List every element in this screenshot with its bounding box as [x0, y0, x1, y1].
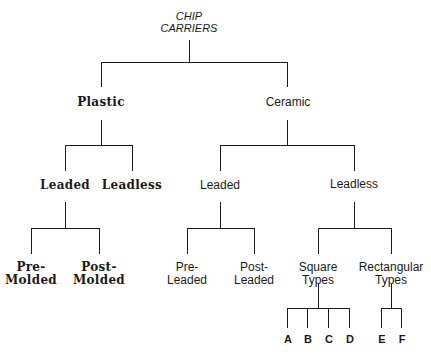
connector-to-ceramic-leadless	[354, 145, 355, 171]
connector-to-a	[287, 308, 288, 328]
connector-ceramic-leaded-stem	[220, 202, 221, 228]
node-ceramic-leadless: Leadless	[330, 178, 378, 191]
connector-ceramic-leadless-stem	[354, 202, 355, 228]
connector-to-pre-molded	[31, 228, 32, 254]
node-ceramic: Ceramic	[266, 96, 311, 109]
node-type-f: F	[399, 333, 406, 346]
connector-rectangular-types-bar	[381, 308, 402, 309]
post-molded-line2: Molded	[73, 274, 125, 287]
node-type-a: A	[284, 333, 292, 346]
node-type-b: B	[304, 333, 312, 346]
node-post-molded: Post- Molded	[73, 261, 125, 287]
node-type-e: E	[378, 333, 385, 346]
connector-to-ceramic	[287, 62, 288, 87]
connector-root-bar	[101, 62, 288, 63]
connector-to-pre-leaded	[187, 228, 188, 254]
node-plastic-leadless: Leadless	[102, 179, 162, 192]
connector-plastic-bar	[65, 145, 133, 146]
connector-plastic-stem	[101, 120, 102, 145]
connector-plastic-leaded-bar	[31, 228, 100, 229]
connector-to-e	[381, 308, 382, 328]
connector-to-plastic-leaded	[65, 145, 66, 171]
connector-ceramic-leaded-bar	[187, 228, 255, 229]
node-type-c: C	[325, 333, 333, 346]
connector-to-plastic	[101, 62, 102, 87]
connector-to-square-types	[318, 228, 319, 254]
connector-to-post-leaded	[254, 228, 255, 254]
node-ceramic-leaded: Leaded	[200, 179, 240, 192]
connector-to-d	[349, 308, 350, 328]
node-type-d: D	[346, 333, 354, 346]
post-leaded-line2: Leaded	[234, 274, 274, 287]
connector-plastic-leaded-stem	[65, 202, 66, 228]
connector-ceramic-bar	[220, 145, 355, 146]
connector-square-types-bar	[287, 308, 350, 309]
connector-to-plastic-leadless	[132, 145, 133, 171]
pre-leaded-line2: Leaded	[167, 274, 207, 287]
root-label-line1: CHIP	[161, 10, 218, 22]
connector-to-ceramic-leaded	[220, 145, 221, 171]
connector-ceramic-stem	[287, 120, 288, 145]
connector-square-types-stem	[318, 284, 319, 308]
connector-to-rectangular-types	[391, 228, 392, 254]
root-label-line2: CARRIERS	[161, 22, 218, 34]
connector-rectangular-types-stem	[391, 284, 392, 308]
connector-to-f	[401, 308, 402, 328]
connector-to-post-molded	[99, 228, 100, 254]
node-post-leaded: Post- Leaded	[234, 261, 274, 287]
connector-ceramic-leadless-bar	[318, 228, 392, 229]
node-plastic-leaded: Leaded	[40, 179, 90, 192]
connector-to-b	[307, 308, 308, 328]
connector-to-c	[328, 308, 329, 328]
node-pre-molded: Pre- Molded	[5, 261, 57, 287]
chip-carriers-tree-diagram: CHIP CARRIERS Plastic Ceramic Leaded Lea…	[0, 0, 431, 358]
root-node-chip-carriers: CHIP CARRIERS	[161, 10, 218, 34]
connector-root-stem	[189, 40, 190, 62]
pre-molded-line2: Molded	[5, 274, 57, 287]
node-pre-leaded: Pre- Leaded	[167, 261, 207, 287]
node-plastic: Plastic	[77, 96, 125, 109]
